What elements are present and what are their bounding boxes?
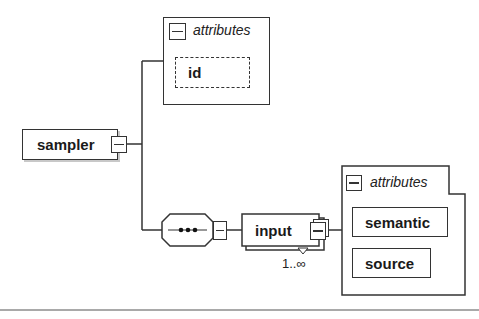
attribute-id-label: id	[188, 64, 201, 81]
collapse-icon[interactable]	[169, 23, 186, 40]
attribute-source-label: source	[365, 255, 414, 272]
multiplicity-label: 1..∞	[282, 256, 306, 271]
collapse-icon[interactable]	[310, 222, 326, 240]
input-element[interactable]: input	[242, 214, 310, 246]
sampler-label: sampler	[37, 136, 95, 153]
collapse-icon[interactable]	[213, 221, 227, 240]
attribute-source[interactable]: source	[352, 248, 431, 278]
sampler-element[interactable]: sampler	[22, 129, 118, 160]
attribute-id[interactable]: id	[175, 57, 250, 88]
attributes-header: attributes	[370, 174, 428, 190]
attributes-header: attributes	[193, 22, 251, 38]
input-label: input	[255, 222, 292, 239]
attribute-semantic[interactable]: semantic	[352, 207, 448, 237]
collapse-icon[interactable]	[111, 136, 127, 153]
attribute-semantic-label: semantic	[365, 214, 430, 231]
collapse-icon[interactable]	[346, 175, 362, 191]
sequence-compositor[interactable]	[162, 214, 213, 246]
